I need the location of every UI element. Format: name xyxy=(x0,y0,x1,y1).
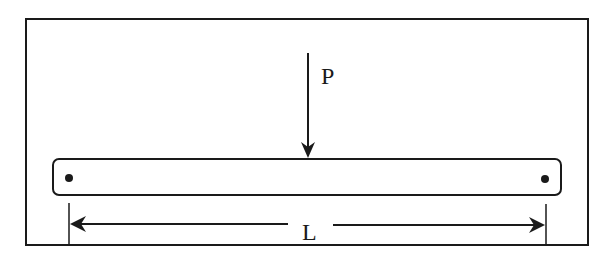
load-arrow xyxy=(301,53,315,158)
left-pin xyxy=(65,174,73,182)
right-pin xyxy=(541,175,549,183)
beam-diagram: P L xyxy=(0,0,614,255)
load-label: P xyxy=(321,63,334,89)
length-label: L xyxy=(302,219,317,245)
beam xyxy=(53,159,561,195)
